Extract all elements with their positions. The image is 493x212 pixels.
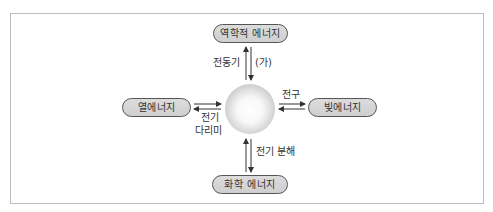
- node-light-energy: 빛에너지: [308, 98, 377, 117]
- label-electrolysis: 전기 분해: [256, 146, 295, 158]
- label-iron-line1: 전기: [201, 112, 219, 124]
- node-chemical-energy: 화학 에너지: [212, 175, 288, 194]
- node-mechanical-energy: 역학적 에너지: [213, 24, 288, 43]
- label-motor: 전동기: [213, 57, 240, 69]
- label-iron-line2: 다리미: [195, 125, 222, 137]
- label-bulb: 전구: [282, 89, 300, 101]
- label-ga: (가): [255, 57, 272, 69]
- node-heat-energy: 열에너지: [122, 98, 191, 117]
- energy-sphere: [225, 84, 275, 134]
